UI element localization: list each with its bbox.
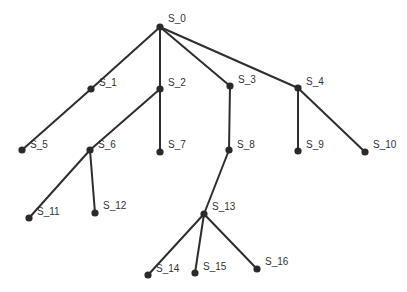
- node-s-16: [253, 265, 260, 272]
- node-s-14: [144, 271, 151, 278]
- node-label: S_14: [156, 263, 180, 274]
- node-label: S_3: [238, 74, 256, 85]
- node-s-4: [294, 84, 301, 91]
- node-s-12: [91, 209, 98, 216]
- node-s-3: [226, 82, 233, 89]
- node-label: S_8: [237, 139, 255, 150]
- node-label: S_0: [168, 13, 186, 24]
- node-label: S_10: [373, 139, 397, 150]
- node-label: S_1: [99, 77, 117, 88]
- tree-diagram: S_0S_1S_2S_3S_4S_5S_6S_7S_8S_9S_10S_11S_…: [0, 0, 407, 292]
- node-label: S_4: [306, 76, 324, 87]
- node-s-0: [156, 23, 163, 30]
- tree-nodes: [18, 23, 368, 278]
- node-label: S_16: [265, 256, 289, 267]
- node-s-2: [156, 85, 163, 92]
- node-s-15: [191, 269, 198, 276]
- node-label: S_2: [168, 77, 186, 88]
- node-s-1: [87, 85, 94, 92]
- tree-labels: S_0S_1S_2S_3S_4S_5S_6S_7S_8S_9S_10S_11S_…: [30, 13, 397, 274]
- node-label: S_5: [30, 139, 48, 150]
- node-label: S_15: [203, 261, 227, 272]
- node-label: S_11: [37, 206, 60, 217]
- node-s-13: [200, 210, 207, 217]
- node-s-9: [294, 147, 301, 154]
- node-s-11: [25, 214, 32, 221]
- node-label: S_7: [168, 139, 186, 150]
- node-label: S_12: [103, 200, 127, 211]
- node-label: S_9: [306, 139, 324, 150]
- node-s-7: [156, 148, 163, 155]
- tree-edges: [22, 27, 365, 275]
- node-s-10: [361, 148, 368, 155]
- node-label: S_6: [98, 139, 116, 150]
- node-s-6: [86, 146, 93, 153]
- node-label: S_13: [212, 201, 236, 212]
- node-s-8: [225, 146, 232, 153]
- edge-s6-s12: [90, 150, 95, 213]
- node-s-5: [18, 146, 25, 153]
- edge-s3-s8: [229, 86, 230, 150]
